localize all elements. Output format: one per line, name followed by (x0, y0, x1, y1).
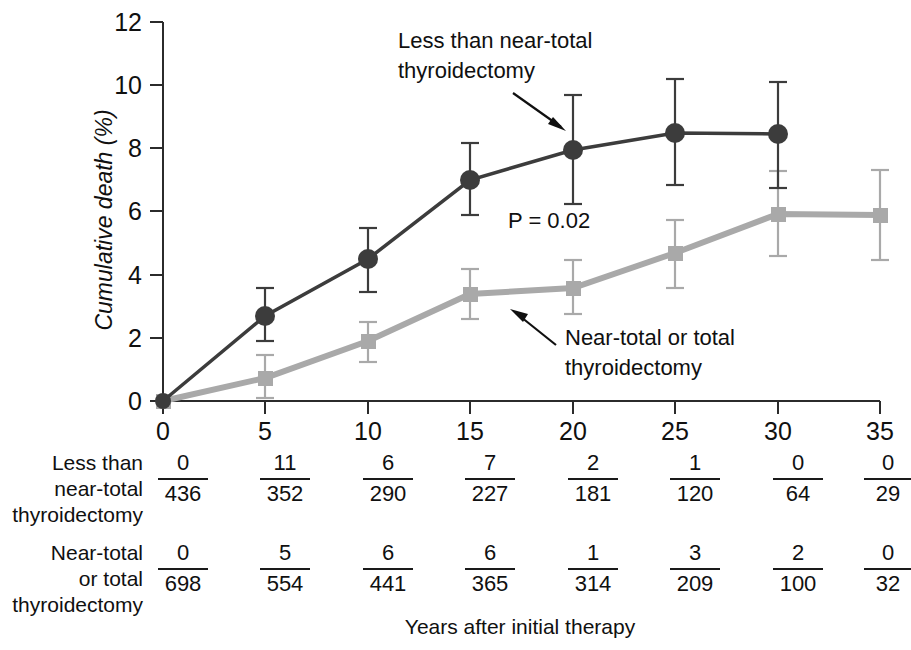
risk-row1-denominator-3: 227 (472, 481, 509, 506)
risk-table-row-less-than-near-total: Less than near-total thyroidectomy 0 436… (12, 450, 911, 526)
risk-row2-denominator-7: 32 (876, 571, 900, 596)
risk-row2-numerator-5: 3 (689, 540, 701, 565)
y-tick-label-8: 8 (128, 134, 142, 162)
risk-row1-numerator-4: 2 (587, 450, 599, 475)
x-tick-label-35: 35 (866, 417, 894, 445)
risk-row1-cell-5: 1 120 (670, 450, 720, 506)
risk-row2-denominator-2: 441 (370, 571, 407, 596)
risk-row1-label-line-3: thyroidectomy (12, 503, 143, 526)
risk-row2-cell-7: 0 32 (864, 540, 911, 596)
risk-row2-cell-1: 5 554 (260, 540, 310, 596)
risk-row2-label-line-3: thyroidectomy (12, 593, 143, 616)
y-axis-title: Cumulative death (%) (91, 109, 117, 330)
x-tick-label-10: 10 (354, 417, 382, 445)
risk-row1-numerator-0: 0 (177, 450, 189, 475)
risk-row1-denominator-4: 181 (575, 481, 612, 506)
y-tick-label-10: 10 (114, 71, 142, 99)
y-tick-label-4: 4 (128, 261, 142, 289)
risk-row1-denominator-5: 120 (677, 481, 714, 506)
y-tick-label-0: 0 (128, 387, 142, 415)
risk-row1-cell-1: 11 352 (260, 450, 310, 506)
y-tick-label-2: 2 (128, 324, 142, 352)
y-tick-label-6: 6 (128, 197, 142, 225)
y-tick-label-12: 12 (114, 8, 142, 36)
risk-row1-numerator-1: 11 (274, 450, 297, 475)
risk-row2-denominator-0: 698 (165, 571, 202, 596)
risk-row1-cell-6: 0 64 (773, 450, 823, 506)
x-tick-label-5: 5 (258, 417, 272, 445)
figure-container: 12 10 8 6 4 2 0 Cumulative death (%) 0 5… (0, 0, 911, 650)
risk-row2-cell-2: 6 441 (363, 540, 413, 596)
risk-row1-numerator-5: 1 (689, 450, 701, 475)
x-tick-label-30: 30 (764, 417, 792, 445)
risk-row2-numerator-2: 6 (382, 540, 394, 565)
risk-row1-cell-4: 2 181 (568, 450, 618, 506)
risk-row1-denominator-7: 29 (876, 481, 900, 506)
risk-row1-numerator-3: 7 (484, 450, 496, 475)
risk-row2-numerator-7: 0 (882, 540, 894, 565)
risk-row2-cell-6: 2 100 (773, 540, 823, 596)
risk-row1-cell-3: 7 227 (465, 450, 515, 506)
risk-row2-cell-4: 1 314 (568, 540, 618, 596)
risk-row1-cell-7: 0 29 (864, 450, 911, 506)
risk-row1-denominator-1: 352 (267, 481, 304, 506)
annotation-light-line-2: thyroidectomy (565, 355, 702, 380)
annotation-less-than-near-total: Less than near-total thyroidectomy (398, 28, 592, 131)
risk-row1-cell-2: 6 290 (363, 450, 413, 506)
annotation-light-line-1: Near-total or total (565, 325, 735, 350)
x-tick-label-20: 20 (559, 417, 587, 445)
p-value-label: P = 0.02 (508, 208, 590, 233)
risk-row2-numerator-1: 5 (279, 540, 291, 565)
risk-row1-label-line-1: Less than (52, 451, 143, 474)
risk-row2-denominator-6: 100 (780, 571, 817, 596)
x-tick-label-0: 0 (156, 417, 170, 445)
risk-row2-label-line-2: or total (79, 567, 143, 590)
x-tick-label-25: 25 (661, 417, 689, 445)
annotation-dark-line-2: thyroidectomy (398, 58, 535, 83)
risk-row2-denominator-5: 209 (677, 571, 714, 596)
risk-row2-cell-3: 6 365 (465, 540, 515, 596)
risk-row2-cell-0: 0 698 (158, 540, 208, 596)
risk-row2-numerator-0: 0 (177, 540, 189, 565)
x-axis-title: Years after initial therapy (405, 615, 636, 638)
risk-row1-numerator-2: 6 (382, 450, 394, 475)
annotation-near-total-or-total: Near-total or total thyroidectomy (510, 309, 735, 380)
risk-row2-denominator-4: 314 (575, 571, 612, 596)
risk-row1-denominator-2: 290 (370, 481, 407, 506)
risk-row2-numerator-6: 2 (792, 540, 804, 565)
risk-row2-denominator-1: 554 (267, 571, 304, 596)
survival-curve-chart: 12 10 8 6 4 2 0 Cumulative death (%) 0 5… (0, 0, 911, 650)
annotation-dark-line-1: Less than near-total (398, 28, 592, 53)
x-axis: 0 5 10 15 20 25 30 35 (156, 401, 894, 445)
risk-row1-denominator-0: 436 (165, 481, 202, 506)
risk-row2-cell-5: 3 209 (670, 540, 720, 596)
risk-row1-cell-0: 0 436 (158, 450, 208, 506)
y-axis: 12 10 8 6 4 2 0 Cumulative death (%) (91, 8, 163, 415)
x-tick-label-15: 15 (456, 417, 484, 445)
risk-table-row-near-total-or-total: Near-total or total thyroidectomy 0 698 … (12, 540, 911, 616)
risk-row2-numerator-4: 1 (587, 540, 599, 565)
risk-row1-numerator-6: 0 (792, 450, 804, 475)
risk-row2-label-line-1: Near-total (51, 541, 143, 564)
risk-row1-denominator-6: 64 (786, 481, 810, 506)
risk-row2-numerator-3: 6 (484, 540, 496, 565)
risk-row1-label-line-2: near-total (54, 477, 143, 500)
risk-row2-denominator-3: 365 (472, 571, 509, 596)
risk-row1-numerator-7: 0 (882, 450, 894, 475)
